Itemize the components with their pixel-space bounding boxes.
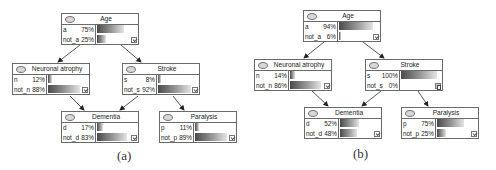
edge-stroke-paralysis	[418, 91, 428, 106]
node-stroke[interactable]: Stroke s8% not_s92%	[122, 63, 200, 95]
node-neuronal-atrophy[interactable]: Neuronal atrophy n14% not_n86%	[254, 59, 332, 91]
checkbox-icon[interactable]	[374, 131, 380, 137]
node-paralysis[interactable]: Paralysis p11% not_p89%	[159, 111, 237, 143]
node-title: Age	[74, 16, 138, 23]
edge-stroke-dementia	[362, 91, 381, 106]
edge-stroke-paralysis	[173, 96, 184, 110]
state-pct: 12%	[32, 77, 45, 83]
probability-bar	[290, 71, 295, 79]
state-pct: 11%	[180, 125, 192, 131]
edge-age-neuronal	[58, 45, 80, 62]
state-pct: 75%	[81, 27, 94, 33]
probability-bar	[340, 119, 359, 127]
edge-stroke-dementia	[120, 96, 138, 110]
probability-bar	[340, 129, 357, 137]
state-label: not_n	[256, 83, 272, 89]
probability-bar	[195, 133, 227, 141]
node-title: Dementia	[74, 114, 138, 121]
probability-bar	[48, 75, 52, 83]
node-age[interactable]: Age a94% not_a6%	[303, 10, 381, 42]
node-age[interactable]: Age a75% not_a25%	[61, 13, 139, 45]
checkbox-icon[interactable]	[82, 87, 88, 93]
node-title: Age	[316, 13, 380, 20]
probability-bar	[97, 133, 127, 141]
node-title: Neuronal atrophy	[267, 62, 331, 69]
node-title: Neuronal atrophy	[25, 66, 89, 73]
evidence-icon[interactable]	[435, 83, 441, 89]
state-label: n	[256, 73, 260, 79]
node-stroke[interactable]: Stroke s100% not_s0%	[365, 59, 443, 91]
probability-bar	[48, 85, 80, 93]
edge-neuronal-dementia	[312, 91, 328, 106]
node-title: Stroke	[135, 66, 199, 73]
probability-bar	[437, 119, 464, 127]
state-label: d	[306, 121, 310, 127]
state-pct: 52%	[324, 121, 337, 127]
edge-neuronal-dementia	[70, 96, 84, 110]
probability-bar	[158, 75, 161, 83]
edge-age-stroke	[363, 42, 384, 58]
state-label: not_d	[63, 135, 79, 141]
state-pct: 8%	[146, 77, 155, 83]
state-pct: 86%	[274, 83, 287, 89]
node-paralysis[interactable]: Paralysis p75% not_p25%	[401, 107, 479, 139]
probability-bar	[401, 71, 437, 79]
state-label: not_a	[305, 34, 321, 40]
probability-bar	[195, 123, 199, 131]
probability-bar	[158, 85, 191, 93]
node-neuronal-atrophy[interactable]: Neuronal atrophy n12% not_n88%	[12, 63, 90, 95]
state-label: p	[403, 121, 407, 127]
probability-bar	[97, 25, 124, 33]
network-panel-b: Age a94% not_a6% Neuronal atrophy n14% n…	[246, 0, 494, 170]
state-label: not_s	[124, 87, 140, 93]
state-label: not_a	[63, 37, 79, 43]
state-pct: 89%	[179, 135, 192, 141]
node-title: Dementia	[317, 110, 381, 117]
edge-age-stroke	[121, 45, 141, 62]
state-pct: 25%	[421, 131, 434, 137]
checkbox-icon[interactable]	[131, 37, 137, 43]
node-title: Stroke	[378, 62, 442, 69]
probability-bar	[97, 123, 103, 131]
state-label: not_s	[367, 83, 383, 89]
edge-age-neuronal	[304, 42, 324, 58]
state-label: not_n	[14, 87, 30, 93]
state-pct: 6%	[327, 34, 336, 40]
state-pct: 48%	[324, 131, 337, 137]
state-label: n	[14, 77, 18, 83]
node-dementia[interactable]: Dementia d52% not_d48%	[304, 107, 382, 139]
state-label: not_p	[161, 135, 177, 141]
state-label: p	[161, 125, 165, 131]
checkbox-icon[interactable]	[229, 135, 235, 141]
checkbox-icon[interactable]	[471, 131, 477, 137]
state-pct: 94%	[323, 24, 336, 30]
state-pct: 83%	[81, 135, 94, 141]
state-label: s	[124, 77, 127, 83]
probability-bar	[437, 129, 446, 137]
node-title: Paralysis	[172, 114, 236, 121]
panel-caption: (b)	[353, 146, 368, 162]
state-pct: 25%	[81, 37, 94, 43]
state-pct: 75%	[421, 121, 434, 127]
state-label: not_p	[403, 131, 419, 137]
network-panel-a: Age a75% not_a25% Neuronal atrophy n12% …	[0, 0, 248, 170]
checkbox-icon[interactable]	[192, 87, 198, 93]
probability-bar	[290, 81, 321, 89]
state-pct: 100%	[382, 73, 398, 79]
state-pct: 92%	[142, 87, 155, 93]
state-pct: 88%	[32, 87, 45, 93]
probability-bar	[339, 32, 341, 40]
state-pct: 17%	[81, 125, 94, 131]
probability-bar	[339, 22, 373, 30]
state-pct: 0%	[389, 83, 398, 89]
state-label: a	[63, 27, 67, 33]
checkbox-icon[interactable]	[324, 83, 330, 89]
checkbox-icon[interactable]	[373, 34, 379, 40]
state-label: a	[305, 24, 309, 30]
node-dementia[interactable]: Dementia d17% not_d83%	[61, 111, 139, 143]
state-label: s	[367, 73, 370, 79]
state-label: d	[63, 125, 67, 131]
checkbox-icon[interactable]	[131, 135, 137, 141]
node-title: Paralysis	[414, 110, 478, 117]
panel-caption: (a)	[117, 148, 131, 164]
